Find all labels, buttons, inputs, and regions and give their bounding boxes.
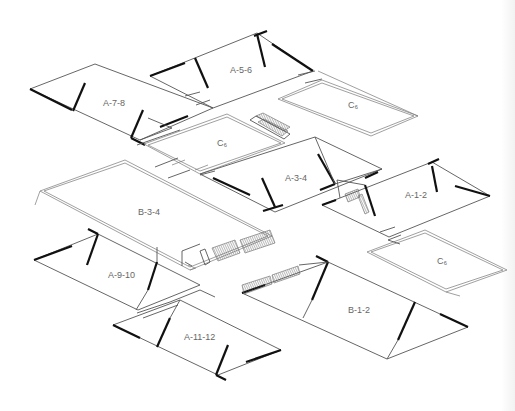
stair-near-a-1-2 [345,189,360,202]
stair-b-1-2-left [242,276,272,294]
block-courtyard-upper-right: C₆ [278,71,418,136]
label-a-3-4: A-3-4 [285,173,307,183]
label-a-9-10: A-9-10 [108,270,135,280]
block-a-11-12: A-11-12 [113,300,281,380]
stair-b-3-4-front [182,230,275,266]
block-a-1-2: A-1-2 [322,159,490,240]
label-courtyard-lower-right: C₆ [437,256,447,266]
label-courtyard-upper-right: C₆ [348,100,358,110]
block-a-5-6: A-5-6 [150,31,322,108]
label-courtyard-middle: C₆ [217,138,227,148]
label-b-1-2: B-1-2 [348,305,370,315]
block-a-9-10: A-9-10 [34,229,200,318]
connecting-corridors [170,265,215,302]
label-a-7-8: A-7-8 [103,98,125,108]
axonometric-site-diagram: A-5-6 A-7-8 C₆ C₆ [0,0,515,411]
block-b-1-2: B-1-2 [242,256,468,359]
label-a-11-12: A-11-12 [184,332,215,342]
stair-near-c-middle [250,113,290,139]
block-a-3-4: A-3-4 [200,137,382,212]
block-a-7-8: A-7-8 [30,64,213,145]
label-a-1-2: A-1-2 [405,190,427,200]
label-a-5-6: A-5-6 [230,65,252,75]
label-b-3-4: B-3-4 [138,207,160,217]
